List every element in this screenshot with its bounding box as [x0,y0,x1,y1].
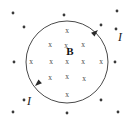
field-into-page-x: x [48,73,52,82]
field-into-page-x: x [99,57,103,66]
field-into-page-x: x [29,57,33,66]
field-into-page-x: x [81,40,85,49]
field-out-of-page-dot [116,10,119,13]
magnetic-field-label: B [66,45,74,57]
field-out-of-page-dot [66,112,69,115]
field-into-page-x: x [65,26,69,35]
field-into-page-x: x [81,57,85,66]
field-out-of-page-dot [23,99,26,102]
field-out-of-page-dot [115,28,118,31]
field-out-of-page-dot [117,111,120,114]
field-into-page-x: x [65,72,69,81]
field-out-of-page-dot [23,26,26,29]
field-out-of-page-dot [100,24,103,27]
field-out-of-page-dot [63,14,66,17]
field-into-page-x: x [48,40,52,49]
field-into-page-x: x [65,57,69,66]
field-into-page-x: x [82,74,86,83]
inside-x-mark-group: xxxxxxxxxxxxx [29,26,103,99]
field-out-of-page-dot [114,61,117,64]
current-label-group: II [26,30,123,108]
field-out-of-page-dot [13,61,16,64]
field-out-of-page-dot [12,12,15,15]
physics-figure: xxxxxxxxxxxxx B II [0,0,136,121]
current-label: I [117,30,123,44]
field-out-of-page-dot [12,111,15,114]
current-label: I [26,94,32,108]
field-into-page-x: x [49,57,53,66]
field-into-page-x: x [65,90,69,99]
figure-canvas: xxxxxxxxxxxxx B II [0,0,136,121]
field-out-of-page-dot [100,99,103,102]
